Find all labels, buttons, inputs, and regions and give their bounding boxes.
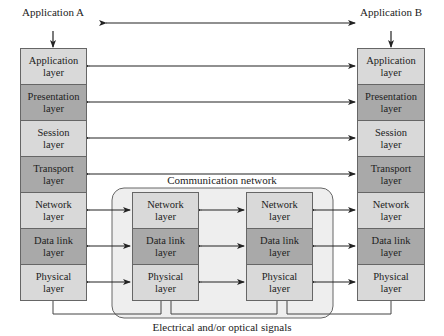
right-stack-layer-5: Data link layer (357, 228, 425, 265)
application-a-label: Application A (22, 6, 84, 18)
right-stack-layer-4: Network layer (357, 192, 425, 229)
application-b-label: Application B (360, 6, 422, 18)
node2-layer-2: Physical layer (246, 264, 313, 301)
node1-layer-1: Data link layer (132, 228, 199, 265)
right-stack-layer-6: Physical layer (357, 264, 425, 301)
node2-layer-1: Data link layer (246, 228, 313, 265)
node2-layer-0: Network layer (246, 192, 313, 229)
node1-layer-2: Physical layer (132, 264, 199, 301)
communication-network-title: Communication network (167, 174, 277, 186)
right-stack-layer-1: Presentation layer (357, 84, 425, 121)
right-stack-layer-2: Session layer (357, 120, 425, 157)
left-stack-layer-6: Physical layer (20, 264, 87, 301)
left-stack-layer-0: Application layer (20, 48, 87, 85)
left-stack-layer-5: Data link layer (20, 228, 87, 265)
node1-layer-0: Network layer (132, 192, 199, 229)
left-stack-layer-3: Transport layer (20, 156, 87, 193)
signals-caption: Electrical and/or optical signals (153, 321, 292, 333)
left-stack-layer-1: Presentation layer (20, 84, 87, 121)
right-stack-layer-0: Application layer (357, 48, 425, 85)
left-stack-layer-2: Session layer (20, 120, 87, 157)
right-stack-layer-3: Transport layer (357, 156, 425, 193)
left-stack-layer-4: Network layer (20, 192, 87, 229)
